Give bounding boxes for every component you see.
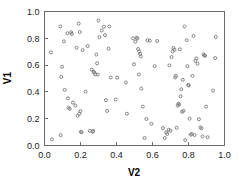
- y-tick-labels: 0.00.20.40.60.81.0: [27, 7, 40, 151]
- y-tick-label: 0.6: [27, 60, 40, 70]
- data-point: [86, 45, 89, 48]
- data-point: [80, 131, 83, 134]
- data-point: [185, 39, 188, 42]
- data-point: [196, 62, 199, 65]
- data-point: [178, 48, 181, 51]
- scatter-plot-figure: 0.00.20.40.60.81.0 0.00.20.40.60.81.0 V2…: [0, 0, 238, 181]
- x-tick-label: 0.2: [74, 150, 87, 160]
- plot-canvas: 0.00.20.40.60.81.0 0.00.20.40.60.81.0 V2…: [0, 0, 238, 181]
- data-point: [132, 63, 135, 66]
- data-point: [175, 126, 178, 129]
- data-point: [95, 53, 98, 56]
- axes: [45, 12, 225, 146]
- data-point: [141, 105, 144, 108]
- data-point: [168, 64, 171, 67]
- data-point: [92, 130, 95, 133]
- data-point: [116, 76, 119, 79]
- x-tick-label: 0.8: [182, 150, 195, 160]
- data-point: [211, 89, 214, 92]
- data-point: [108, 25, 111, 28]
- data-point: [66, 97, 69, 100]
- data-point: [59, 134, 62, 137]
- data-point: [188, 117, 191, 120]
- y-axis-title: V1: [2, 71, 13, 84]
- x-tick-label: 0.0: [38, 150, 51, 160]
- data-point: [214, 35, 217, 38]
- data-point: [71, 101, 74, 104]
- data-point: [191, 74, 194, 77]
- data-point: [206, 136, 209, 139]
- data-point: [63, 88, 66, 91]
- data-point: [143, 137, 146, 140]
- data-point: [184, 139, 187, 142]
- data-point: [183, 25, 186, 28]
- data-point: [97, 19, 100, 22]
- data-point: [145, 117, 148, 120]
- data-point: [180, 88, 183, 91]
- data-point: [134, 40, 137, 43]
- data-point: [150, 122, 153, 125]
- data-points: [49, 19, 217, 142]
- data-point: [193, 134, 196, 137]
- data-point: [84, 90, 87, 93]
- data-point: [186, 65, 189, 68]
- x-tick-label: 0.4: [110, 150, 123, 160]
- data-point: [102, 25, 105, 28]
- data-point: [181, 78, 184, 81]
- data-point: [106, 109, 109, 112]
- data-point: [114, 98, 117, 101]
- data-point: [132, 37, 135, 40]
- data-point: [81, 49, 84, 52]
- data-point: [50, 138, 53, 141]
- y-tick-label: 0.4: [27, 87, 40, 97]
- data-point: [60, 75, 63, 78]
- data-point: [124, 81, 127, 84]
- data-point: [187, 84, 190, 87]
- data-point: [109, 76, 112, 79]
- data-point: [107, 47, 110, 50]
- data-point: [170, 56, 173, 59]
- data-point: [156, 39, 159, 42]
- data-point: [79, 110, 82, 113]
- data-point: [66, 32, 69, 35]
- x-axis-title: V2: [128, 167, 141, 178]
- data-point: [78, 31, 81, 34]
- data-point: [137, 73, 140, 76]
- tick-marks: [45, 12, 225, 146]
- data-point: [75, 46, 78, 49]
- data-point: [205, 105, 208, 108]
- data-point: [140, 87, 143, 90]
- x-tick-labels: 0.00.20.40.60.81.0: [38, 150, 231, 160]
- data-point: [197, 118, 200, 121]
- data-point: [153, 65, 156, 68]
- data-point: [179, 95, 182, 98]
- data-point: [214, 57, 217, 60]
- y-tick-label: 0.0: [27, 141, 40, 151]
- data-point: [96, 73, 99, 76]
- data-point: [125, 112, 128, 115]
- data-point: [74, 104, 77, 107]
- data-point: [169, 129, 172, 132]
- data-point: [62, 40, 65, 43]
- y-tick-label: 0.2: [27, 114, 40, 124]
- data-point: [161, 127, 164, 130]
- data-point: [100, 29, 103, 32]
- data-point: [49, 51, 52, 54]
- data-point: [77, 22, 80, 25]
- y-tick-label: 0.8: [27, 34, 40, 44]
- data-point: [163, 137, 166, 140]
- data-point: [192, 34, 195, 37]
- data-point: [96, 62, 99, 65]
- data-point: [61, 65, 64, 68]
- plot-frame: [45, 12, 225, 146]
- data-point: [104, 99, 107, 102]
- data-point: [103, 34, 106, 37]
- y-tick-label: 1.0: [27, 7, 40, 17]
- data-point: [201, 135, 204, 138]
- data-point: [148, 39, 151, 42]
- data-point: [59, 25, 62, 28]
- data-point: [98, 36, 101, 39]
- x-tick-label: 0.6: [146, 150, 159, 160]
- x-tick-label: 1.0: [218, 150, 231, 160]
